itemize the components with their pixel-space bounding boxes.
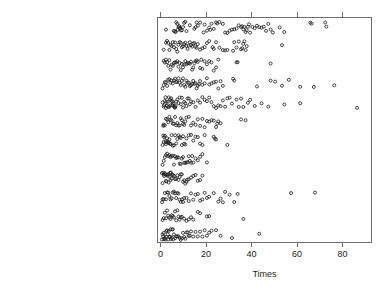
x-tick-mark — [342, 243, 343, 247]
data-point — [194, 230, 197, 233]
x-tick-mark-top — [160, 12, 161, 17]
data-point — [170, 134, 173, 137]
data-point — [188, 24, 191, 27]
data-point — [161, 201, 164, 204]
data-point — [199, 80, 202, 83]
data-point — [168, 59, 171, 62]
data-point — [253, 104, 256, 107]
data-point — [245, 45, 248, 48]
data-point — [201, 174, 204, 177]
data-point — [208, 40, 211, 43]
x-tick-mark-top — [342, 12, 343, 17]
data-point — [175, 197, 178, 200]
data-point — [230, 102, 233, 105]
data-point — [269, 62, 272, 65]
data-point — [169, 68, 172, 71]
data-point — [205, 161, 208, 164]
data-point — [174, 134, 177, 137]
x-tick-mark — [206, 243, 207, 247]
data-point — [192, 198, 195, 201]
data-point — [235, 46, 238, 49]
data-point — [203, 82, 206, 85]
data-point — [166, 209, 169, 212]
data-point — [217, 58, 220, 61]
data-point — [185, 105, 188, 108]
data-point — [244, 119, 247, 122]
x-tick-label: 80 — [337, 249, 347, 259]
data-point — [203, 23, 206, 26]
data-point — [215, 66, 218, 69]
data-point — [164, 96, 167, 99]
data-point — [217, 200, 220, 203]
data-point — [161, 182, 164, 185]
data-point — [192, 139, 195, 142]
x-axis-title: Times — [252, 269, 276, 279]
data-point — [287, 78, 290, 81]
data-point — [232, 49, 235, 52]
x-tick-label: 40 — [246, 249, 256, 259]
data-point — [203, 60, 206, 63]
data-point — [205, 77, 208, 80]
data-point — [189, 230, 192, 233]
data-point — [215, 229, 218, 232]
x-tick-mark — [160, 243, 161, 247]
data-point — [164, 28, 167, 31]
data-point — [283, 103, 286, 106]
data-point — [215, 106, 218, 109]
data-point — [226, 143, 229, 146]
data-point — [203, 191, 206, 194]
data-point — [210, 229, 213, 232]
data-point — [201, 153, 204, 156]
data-point — [194, 123, 197, 126]
x-tick-mark-top — [251, 12, 252, 17]
data-point — [175, 142, 178, 145]
data-point — [208, 96, 211, 99]
data-point — [219, 122, 222, 125]
data-point — [195, 21, 198, 24]
data-point — [168, 115, 171, 118]
data-point — [280, 84, 283, 87]
data-point — [212, 27, 215, 30]
data-point — [215, 41, 218, 44]
data-point — [313, 191, 316, 194]
data-point — [199, 124, 202, 127]
data-point — [192, 218, 195, 221]
data-point — [182, 106, 185, 109]
data-point — [210, 101, 213, 104]
data-point — [161, 143, 164, 146]
x-tick-label: 20 — [201, 249, 211, 259]
data-point — [267, 22, 270, 25]
data-point — [246, 101, 249, 104]
data-point — [271, 31, 274, 34]
data-point — [205, 234, 208, 237]
data-point — [199, 230, 202, 233]
data-point — [269, 28, 272, 31]
x-tick-label: 60 — [292, 249, 302, 259]
data-point — [219, 234, 222, 237]
data-point — [217, 87, 220, 90]
data-point — [212, 192, 215, 195]
data-point — [162, 48, 165, 51]
data-point — [189, 124, 192, 127]
data-point — [240, 97, 243, 100]
data-point — [312, 85, 315, 88]
data-point — [221, 84, 224, 87]
data-point — [168, 48, 171, 51]
data-point — [205, 29, 208, 32]
data-point — [179, 69, 182, 72]
data-point — [290, 192, 293, 195]
x-tick-label: 0 — [158, 249, 163, 259]
data-point — [203, 134, 206, 137]
data-point — [221, 201, 224, 204]
data-point — [186, 47, 189, 50]
data-point — [185, 30, 188, 33]
data-point — [224, 105, 227, 108]
data-point — [299, 102, 302, 105]
data-point — [219, 197, 222, 200]
data-point — [221, 99, 224, 102]
data-point — [233, 201, 236, 204]
data-point — [233, 41, 236, 44]
data-point — [212, 69, 215, 72]
data-point — [184, 120, 187, 123]
data-points-layer — [1, 1, 391, 298]
